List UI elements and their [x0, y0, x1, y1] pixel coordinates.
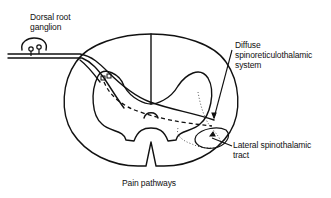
grey-matter — [93, 71, 212, 141]
label-diffuse-system: Diffuse spinoreticulothalamic system — [235, 40, 312, 70]
diffuse-arrow — [212, 113, 216, 118]
lateral-arrow — [210, 132, 215, 136]
label-dorsal-root-ganglion: Dorsal root ganglion — [30, 12, 70, 32]
dorsal-root-fiber-1 — [8, 54, 214, 120]
dorsal-root-ganglion-loop — [22, 38, 47, 50]
label-lateral-tract: Lateral spinothalamic tract — [233, 140, 311, 160]
diffuse-leader — [214, 50, 232, 118]
lateral-tract-region — [195, 128, 228, 148]
ganglion-cell-2 — [37, 45, 41, 49]
diagram-caption: Pain pathways — [122, 178, 176, 188]
ganglion-cell-1 — [29, 47, 33, 51]
